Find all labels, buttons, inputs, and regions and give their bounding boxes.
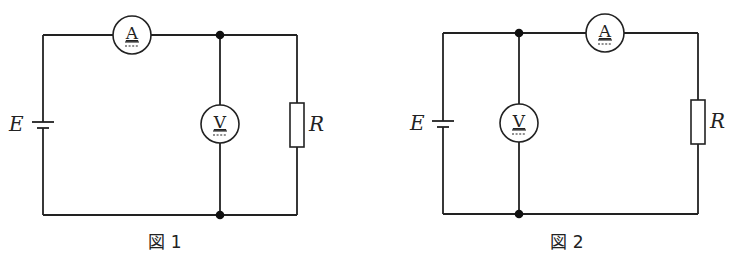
fig1-voltmeter-label: V [213,112,227,132]
fig1-resistor-label: R [308,112,324,136]
fig2-battery-label: E [409,111,425,135]
fig2-resistor-label: R [709,109,725,133]
fig1-voltmeter-icon: V [201,105,239,143]
fig1-junction-bottom [216,211,225,220]
fig1-ammeter-label: A [125,23,139,43]
fig1-battery-icon [32,122,54,128]
fig2-voltmeter-label: V [512,111,526,131]
figure-2: E V A R 図 2 [409,14,725,252]
fig2-junction-top [515,29,524,38]
fig2-ammeter-label: A [598,21,612,41]
fig2-junction-bottom [515,210,524,219]
fig2-voltmeter-icon: V [500,104,538,142]
fig2-caption: 図 2 [550,232,583,252]
figure-1: E A V R 図 1 [8,16,324,252]
circuit-diagrams: E A V R 図 1 [0,0,731,272]
fig1-caption: 図 1 [148,232,181,252]
fig1-wires [43,35,297,215]
fig1-junction-top [216,31,225,40]
fig1-battery-label: E [8,112,24,136]
fig1-ammeter-icon: A [113,16,151,54]
fig2-battery-icon [432,121,454,127]
fig1-resistor-icon [290,103,304,147]
fig2-resistor-icon [691,100,705,144]
fig2-wires [443,33,698,214]
fig2-ammeter-icon: A [586,14,624,52]
